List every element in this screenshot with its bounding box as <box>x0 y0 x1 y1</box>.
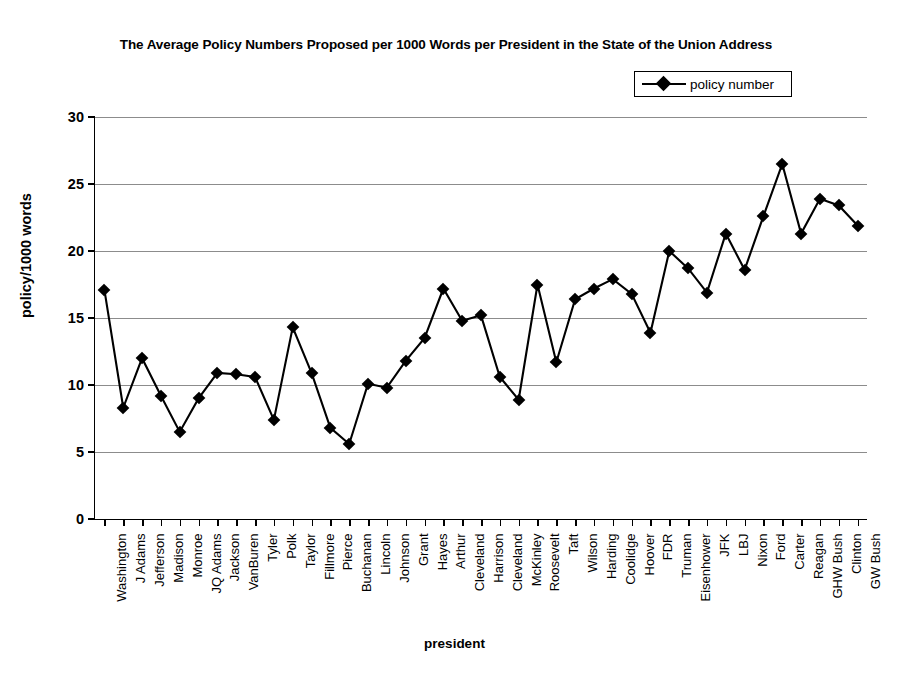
x-tick <box>707 519 709 526</box>
x-tick <box>537 519 539 526</box>
x-tick-label: Buchanan <box>354 533 369 592</box>
x-tick <box>556 519 558 526</box>
y-tick-label: 5 <box>76 444 84 460</box>
x-tick <box>688 519 690 526</box>
x-tick-label: Truman <box>674 533 689 577</box>
x-tick <box>726 519 728 526</box>
y-tick <box>88 183 95 185</box>
x-tick <box>650 519 652 526</box>
x-tick-label: Harrison <box>486 533 501 582</box>
x-tick-label: Taylor <box>298 533 313 568</box>
x-tick-label: VanBuren <box>241 533 256 590</box>
x-tick-label: FDR <box>655 533 670 560</box>
y-tick <box>88 116 95 118</box>
x-tick <box>274 519 276 526</box>
x-tick-label: Coolidge <box>618 533 633 584</box>
x-tick <box>161 519 163 526</box>
x-tick-label: Lincoln <box>373 533 388 574</box>
x-tick <box>839 519 841 526</box>
x-tick <box>199 519 201 526</box>
plot-area: 051015202530 WashingtonJ AdamsJeffersonM… <box>94 117 867 520</box>
x-tick-label: McKinley <box>524 533 539 586</box>
y-tick-label: 15 <box>68 310 84 326</box>
y-tick-label: 25 <box>68 176 84 192</box>
y-tick <box>88 451 95 453</box>
x-tick-label: JFK <box>712 533 727 556</box>
x-tick <box>801 519 803 526</box>
x-tick-label: Jefferson <box>147 533 162 586</box>
x-tick-label: Harding <box>599 533 614 579</box>
x-tick <box>217 519 219 526</box>
x-tick-label: GHW Bush <box>825 533 840 598</box>
x-tick <box>123 519 125 526</box>
y-tick-label: 20 <box>68 243 84 259</box>
x-tick-label: JQ Adams <box>204 533 219 593</box>
x-tick <box>594 519 596 526</box>
x-tick <box>820 519 822 526</box>
line-chart: The Average Policy Numbers Proposed per … <box>0 0 909 681</box>
x-tick <box>142 519 144 526</box>
y-tick-label: 0 <box>76 511 84 527</box>
x-tick-label: Grant <box>411 533 426 566</box>
x-tick-label: Reagan <box>806 533 821 579</box>
legend-marker-icon <box>642 77 686 91</box>
x-tick <box>763 519 765 526</box>
x-tick-label: GW Bush <box>863 533 878 589</box>
x-tick <box>745 519 747 526</box>
x-tick <box>613 519 615 526</box>
x-tick-label: Carter <box>787 533 802 569</box>
legend-label: policy number <box>690 77 774 92</box>
x-tick <box>293 519 295 526</box>
x-tick <box>575 519 577 526</box>
x-tick <box>443 519 445 526</box>
x-tick <box>330 519 332 526</box>
x-tick <box>632 519 634 526</box>
x-tick-label: LBJ <box>731 533 746 555</box>
x-tick-label: Madison <box>166 533 181 582</box>
x-tick <box>368 519 370 526</box>
y-tick <box>88 250 95 252</box>
x-tick-label: J Adams <box>128 533 143 583</box>
x-tick-label: Monroe <box>185 533 200 577</box>
y-tick <box>88 518 95 520</box>
x-tick <box>312 519 314 526</box>
y-tick <box>88 317 95 319</box>
x-tick <box>462 519 464 526</box>
x-tick <box>255 519 257 526</box>
chart-legend: policy number <box>634 71 792 97</box>
x-tick-label: Ford <box>768 533 783 560</box>
x-tick-label: Hayes <box>430 533 445 570</box>
chart-title: The Average Policy Numbers Proposed per … <box>96 34 796 55</box>
x-tick <box>349 519 351 526</box>
y-tick-label: 10 <box>68 377 84 393</box>
x-tick-label: Eisenhower <box>693 533 708 601</box>
x-tick <box>481 519 483 526</box>
x-tick <box>858 519 860 526</box>
x-tick-label: Wilson <box>580 533 595 572</box>
x-tick <box>782 519 784 526</box>
x-tick <box>387 519 389 526</box>
x-tick <box>236 519 238 526</box>
x-tick-label: Cleveland <box>467 533 482 591</box>
x-tick-label: Taft <box>561 533 576 554</box>
x-tick-label: Pierce <box>335 533 350 570</box>
x-tick <box>104 519 106 526</box>
x-tick <box>406 519 408 526</box>
x-axis-title: president <box>0 636 909 651</box>
x-tick-label: Arthur <box>448 533 463 568</box>
x-tick-label: Hoover <box>637 533 652 575</box>
y-tick-label: 30 <box>68 109 84 125</box>
x-tick-label: Johnson <box>392 533 407 582</box>
x-tick-label: Tyler <box>260 533 275 561</box>
x-tick <box>519 519 521 526</box>
y-axis-title: policy/1000 words <box>18 193 34 318</box>
x-tick-label: Fillmore <box>317 533 332 579</box>
x-tick <box>500 519 502 526</box>
x-tick <box>425 519 427 526</box>
x-tick-label: Clinton <box>844 533 859 573</box>
x-tick-label: Jackson <box>222 533 237 581</box>
x-tick <box>180 519 182 526</box>
x-tick-label: Washington <box>109 533 124 601</box>
x-tick <box>669 519 671 526</box>
y-tick <box>88 384 95 386</box>
